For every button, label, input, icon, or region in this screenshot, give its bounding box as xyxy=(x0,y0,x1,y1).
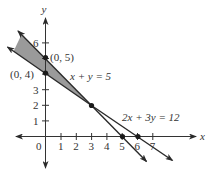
y-tick-label-6: 6 xyxy=(33,37,39,49)
origin-label: 0 xyxy=(36,140,42,152)
x-tick-label-1: 1 xyxy=(58,140,64,152)
y-tick-label-1: 1 xyxy=(33,115,39,127)
equation-label-line2: 2x + 3y = 12 xyxy=(122,111,180,123)
x-tick-label-5: 5 xyxy=(119,140,125,152)
linear-inequality-graph: y x 0 1 2 3 4 5 6 7 1 2 3 6 (0, 5) (0, 4… xyxy=(0,0,210,178)
y-tick-label-3: 3 xyxy=(33,84,39,96)
point-label-0-5: (0, 5) xyxy=(50,51,74,64)
x-tick-label-4: 4 xyxy=(104,140,110,152)
point-5-0 xyxy=(120,134,125,139)
x-tick-label-2: 2 xyxy=(73,140,79,152)
equation-label-line1: x + y = 5 xyxy=(69,70,112,82)
point-label-0-4: (0, 4) xyxy=(10,68,34,81)
point-0-4 xyxy=(43,70,48,75)
x-tick-label-7: 7 xyxy=(150,140,156,152)
x-axis-label: x xyxy=(199,130,205,142)
y-tick-label-2: 2 xyxy=(33,99,39,111)
point-3-2 xyxy=(89,103,94,108)
x-tick-label-3: 3 xyxy=(89,140,95,152)
point-6-0 xyxy=(135,134,140,139)
y-axis-label: y xyxy=(41,3,47,15)
x-tick-label-6: 6 xyxy=(135,140,141,152)
point-0-5 xyxy=(43,55,48,60)
